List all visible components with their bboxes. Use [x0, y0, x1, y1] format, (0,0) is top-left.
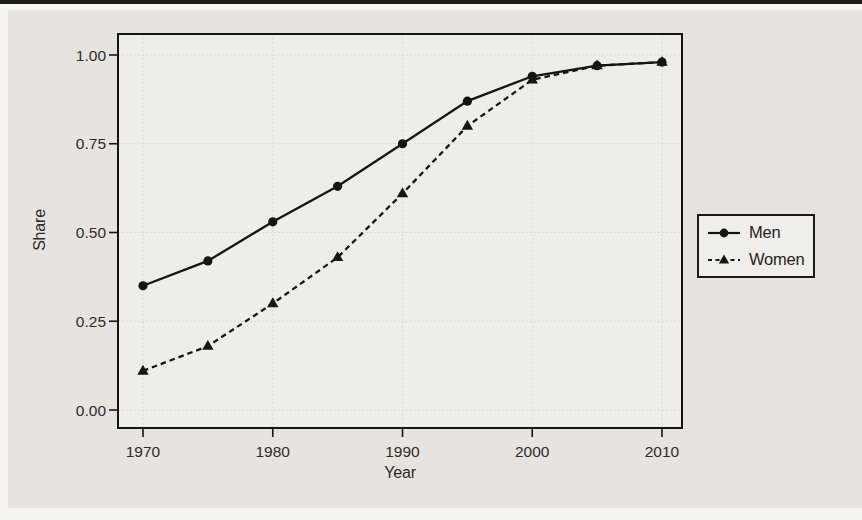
x-tick-label: 1970 [126, 443, 161, 460]
y-tick-label: 0.25 [76, 313, 106, 330]
men-line-sample-icon [706, 225, 742, 241]
y-tick-label: 0.75 [76, 135, 106, 152]
legend-item-men: Men [706, 221, 813, 245]
legend-label-women: Women [749, 250, 805, 269]
men-marker [138, 281, 147, 290]
chart-legend: Men Women [697, 214, 815, 278]
men-marker [333, 182, 342, 191]
y-tick-label: 0.50 [76, 224, 107, 241]
plot-area [118, 34, 682, 428]
scanned-figure-page: 0.000.250.500.751.0019701980199020002010… [0, 0, 862, 520]
men-marker [398, 139, 407, 148]
men-marker [463, 97, 472, 106]
men-marker [203, 256, 212, 265]
x-tick-label: 2000 [515, 443, 550, 460]
women-line-sample-icon [706, 252, 742, 268]
x-axis-title: Year [330, 464, 470, 482]
x-tick-label: 1980 [256, 443, 291, 460]
y-tick-label: 0.00 [76, 402, 107, 419]
x-tick-label: 2010 [645, 443, 680, 460]
y-tick-label: 1.00 [76, 47, 107, 64]
x-tick-label: 1990 [385, 443, 420, 460]
legend-item-women: Women [706, 248, 813, 272]
y-axis-title: Share [31, 199, 51, 261]
men-marker [268, 217, 277, 226]
legend-label-men: Men [749, 223, 781, 242]
